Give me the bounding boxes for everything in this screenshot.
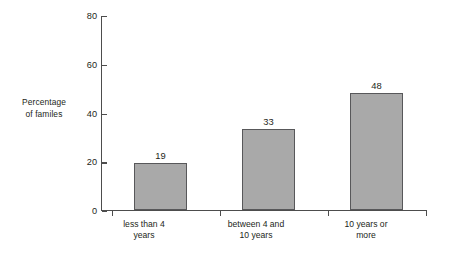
category-label-1-line-1: between 4 and xyxy=(211,219,301,230)
y-tick-label-60: 60 xyxy=(87,60,97,70)
bar-value-label-2: 48 xyxy=(371,80,381,91)
category-label-1: between 4 and 10 years xyxy=(211,219,301,242)
x-tick-boundary-0 xyxy=(112,211,113,216)
category-label-2-line-1: 10 years or xyxy=(325,219,407,230)
y-tick-label-0: 0 xyxy=(92,206,97,216)
y-axis-title: Percentage of familes xyxy=(8,97,80,120)
y-tick-label-80: 80 xyxy=(87,11,97,21)
chart-container: Percentage of familes 0 20 40 60 80 xyxy=(0,0,449,258)
plot-area: 0 20 40 60 80 19 33 48 xyxy=(101,16,427,211)
category-label-0-line-1: less than 4 xyxy=(104,219,184,230)
category-label-0: less than 4 years xyxy=(104,219,184,242)
category-label-2: 10 years or more xyxy=(325,219,407,242)
x-tick-boundary-3 xyxy=(426,211,427,216)
bar-between-4-and-10-years[interactable]: 33 xyxy=(242,129,295,209)
x-tick-boundary-1 xyxy=(220,211,221,216)
category-label-0-line-2: years xyxy=(104,230,184,241)
bar-less-than-4-years[interactable]: 19 xyxy=(134,163,187,209)
y-axis-title-line-1: Percentage xyxy=(8,97,80,109)
x-axis-line xyxy=(101,210,427,211)
x-tick-boundary-2 xyxy=(328,211,329,216)
bar-value-label-0: 19 xyxy=(155,150,165,161)
y-axis-title-line-2: of familes xyxy=(8,109,80,121)
category-label-1-line-2: 10 years xyxy=(211,230,301,241)
bar-value-label-1: 33 xyxy=(263,116,273,127)
y-tick-label-40: 40 xyxy=(87,109,97,119)
bar-10-years-or-more[interactable]: 48 xyxy=(350,93,403,210)
category-label-2-line-2: more xyxy=(325,230,407,241)
y-tick-label-20: 20 xyxy=(87,157,97,167)
